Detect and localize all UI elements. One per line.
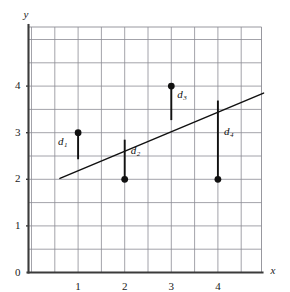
least-squares-line — [60, 93, 264, 178]
residual-label-subscript: 4 — [230, 131, 234, 139]
y-tick-label: 2 — [5, 173, 21, 184]
gridlines-group — [29, 27, 262, 273]
data-point — [121, 176, 128, 183]
x-axis-label: x — [271, 265, 276, 276]
y-axis-label: y — [24, 9, 29, 20]
plot-canvas — [0, 0, 290, 292]
residual-label-subscript: 3 — [183, 94, 187, 102]
residual-label-subscript: 2 — [137, 150, 141, 158]
residual-label-d1: d1 — [58, 136, 67, 147]
x-tick-label: 1 — [68, 281, 88, 292]
x-tick-label: 4 — [208, 281, 228, 292]
y-tick-label: 4 — [5, 80, 21, 91]
data-point — [215, 176, 222, 183]
x-tick-label: 2 — [115, 281, 135, 292]
y-tick-label: 3 — [5, 127, 21, 138]
residual-label-subscript: 1 — [64, 141, 68, 149]
residual-label-base: d — [224, 125, 230, 137]
data-point — [168, 83, 175, 90]
residual-label-d3: d3 — [177, 89, 186, 100]
y-tick-label: 1 — [5, 220, 21, 231]
residual-label-base: d — [58, 135, 64, 147]
residual-label-base: d — [177, 88, 183, 100]
origin-tick-label: 0 — [5, 267, 21, 278]
residual-label-d2: d2 — [131, 145, 140, 156]
fit-line-group — [60, 93, 264, 178]
residual-label-d4: d4 — [224, 126, 233, 137]
data-point — [75, 129, 82, 136]
residual-label-base: d — [131, 144, 137, 156]
axis-lines-group — [26, 25, 263, 273]
x-tick-label: 3 — [161, 281, 181, 292]
scatter-plot-figure: y x 0 12341234 d1d2d3d4 — [0, 0, 290, 292]
